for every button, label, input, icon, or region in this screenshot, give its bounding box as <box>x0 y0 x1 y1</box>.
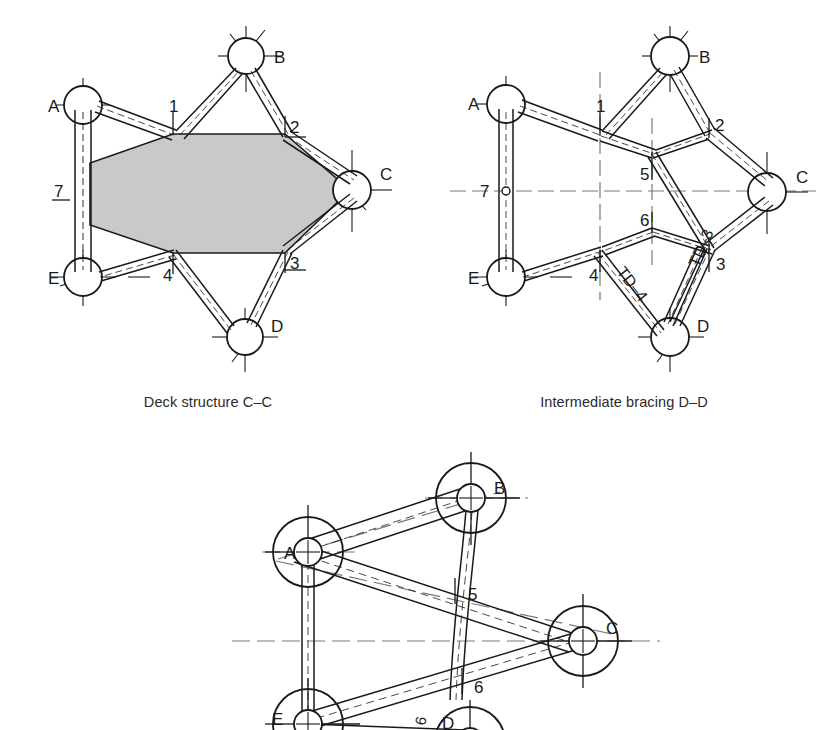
label-node-D: D <box>442 714 454 730</box>
member-A-1-outer <box>99 101 176 130</box>
member-2-C-outer <box>714 128 773 178</box>
label-joint-2: 2 <box>715 116 724 135</box>
member-D-4-center <box>173 254 231 330</box>
member-A-C-inner <box>294 562 569 652</box>
label-joint-6: 6 <box>474 678 483 697</box>
member-1-B-center <box>180 70 240 135</box>
plan-axes <box>232 492 660 641</box>
label-joint-2: 2 <box>290 118 299 137</box>
member-1-5-inner <box>600 141 652 158</box>
member-6-4-center <box>603 232 653 251</box>
deck-structure-drawing: A B C D E 1 2 3 4 7 <box>0 0 416 390</box>
joint-markers <box>502 187 510 195</box>
label-joint-1: 1 <box>169 97 178 116</box>
member-B-5-6-D-inner <box>462 510 478 700</box>
plan-members <box>294 487 582 730</box>
member-5-2-center <box>654 134 710 154</box>
member-3-D-inner <box>247 250 283 323</box>
label-joint-7: 7 <box>480 182 489 201</box>
panel-plan-view: A B C E D 5 6 6 <box>0 420 832 730</box>
member-A-1-center <box>520 106 600 135</box>
label-node-D: D <box>271 317 283 336</box>
caption-deck-structure: Deck structure C–C <box>0 394 416 410</box>
label-joint-3: 3 <box>290 254 299 273</box>
diagonal-labels: TD–4 TD–3 <box>614 226 717 304</box>
node-E <box>64 258 102 296</box>
member-A-B-inner <box>311 508 474 562</box>
member-E-C-center <box>304 640 579 722</box>
member-1-B-inner <box>609 74 667 139</box>
member-A-B-outer <box>303 487 466 541</box>
node-D <box>651 318 689 356</box>
member-A-1-center <box>97 106 174 135</box>
member-2-C-inner <box>706 138 765 186</box>
label-node-A: A <box>468 95 480 114</box>
marker-7 <box>502 187 510 195</box>
label-node-B: B <box>274 48 285 67</box>
panel-intermediate-bracing: TD–4 TD–3 A B C D E 1 2 3 4 5 6 7 Interm… <box>416 0 832 420</box>
label-TD-4: TD–4 <box>614 263 652 304</box>
node-B <box>228 38 264 74</box>
label-node-C: C <box>796 168 808 187</box>
node-E <box>487 258 525 296</box>
member-A-C-outer <box>300 544 575 634</box>
label-node-A: A <box>284 544 296 563</box>
bracing-nodes <box>487 37 786 356</box>
label-node-E: E <box>468 269 479 288</box>
label-joint-1: 1 <box>596 97 605 116</box>
plan-outer-circles <box>273 463 618 730</box>
member-1-B-outer <box>602 68 660 131</box>
member-3-D-center <box>251 252 288 325</box>
label-joint-5: 5 <box>468 585 477 604</box>
label-node-D: D <box>697 317 709 336</box>
label-joint-3: 3 <box>716 255 725 274</box>
label-node-B: B <box>494 479 505 498</box>
member-C-3-center <box>710 201 769 247</box>
label-joint-4: 4 <box>163 266 172 285</box>
member-D-4-outer <box>176 250 234 326</box>
intermediate-bracing-drawing: TD–4 TD–3 A B C D E 1 2 3 4 5 6 7 <box>416 0 832 390</box>
member-6-4-inner <box>605 236 655 255</box>
label-joint-7: 7 <box>54 182 63 201</box>
label-joint-4: 4 <box>589 266 598 285</box>
member-D-4-inner <box>169 257 227 333</box>
member-1-B-center <box>606 71 664 135</box>
member-B-2-center <box>251 71 288 134</box>
member-B-2-center <box>674 70 710 133</box>
label-joint-5: 5 <box>640 165 649 184</box>
member-A-1-inner <box>518 112 598 141</box>
panel-deck-structure: A B C D E 1 2 3 4 7 Deck structure C–C <box>0 0 416 420</box>
node-B <box>651 37 689 75</box>
node-diagonal-marks <box>491 46 776 348</box>
label-node-A: A <box>48 97 60 116</box>
label-joint-6: 6 <box>640 211 649 230</box>
label-node-E: E <box>48 269 59 288</box>
member-1-5-outer <box>602 131 656 150</box>
member-A-C-center <box>297 553 572 643</box>
member-C-3-outer <box>714 205 773 251</box>
member-6-4-outer <box>602 228 652 247</box>
member-3-D-outer <box>256 253 292 327</box>
member-E-C-outer <box>302 632 577 714</box>
label-node-E: E <box>272 710 283 729</box>
member-A-1-inner <box>95 112 172 140</box>
member-1-B-outer <box>176 68 236 131</box>
plan-view-drawing: A B C E D 5 6 6 <box>0 420 832 730</box>
member-A-1-outer <box>522 100 602 130</box>
member-1-B-inner <box>184 73 243 139</box>
label-node-B: B <box>699 48 710 67</box>
caption-intermediate-bracing: Intermediate bracing D–D <box>416 394 832 410</box>
label-node-C: C <box>380 165 392 184</box>
label-joint-6b: 6 <box>411 715 429 727</box>
label-node-C: C <box>606 619 618 638</box>
